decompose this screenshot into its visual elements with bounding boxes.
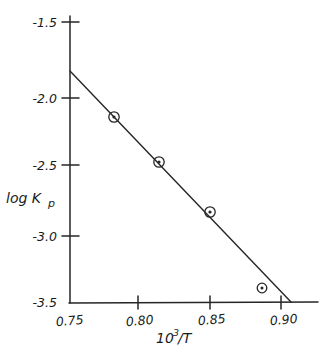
x-tick-label-0: 0.75	[55, 312, 84, 329]
x-tick-label-2: 0.85	[197, 311, 226, 328]
x-tick-label-1: 0.80	[125, 312, 154, 329]
y-axis-title: log K p	[6, 190, 55, 210]
y-axis-title-sub: p	[47, 197, 55, 210]
y-axis-title-main: log K	[6, 190, 43, 206]
data-point-0	[109, 112, 119, 122]
data-point-dot-1	[157, 160, 160, 163]
y-tick-label-1: -2.0	[33, 91, 57, 106]
data-point-3	[257, 283, 267, 293]
data-point-1	[154, 157, 164, 167]
x-axis-title-rest: /T	[176, 330, 193, 346]
chart-figure: -1.5 -2.0 -2.5 -3.0 -3.5 0.75 0.80 0.85 …	[0, 0, 322, 348]
data-point-dot-3	[261, 287, 264, 290]
y-tick-label-0: -1.5	[33, 15, 57, 30]
y-tick-label-3: -3.0	[33, 229, 57, 244]
fit-line-group	[70, 71, 291, 302]
y-tick-labels: -1.5 -2.0 -2.5 -3.0 -3.5	[33, 15, 57, 310]
data-point-dot-0	[112, 115, 115, 118]
x-axis-title: 10 3 /T	[156, 327, 193, 346]
x-tick-label-3: 0.90	[269, 311, 298, 328]
y-tick-label-2: -2.5	[33, 158, 57, 173]
x-axis-title-main: 10	[156, 330, 174, 346]
axes-group	[69, 16, 318, 303]
plot-svg: -1.5 -2.0 -2.5 -3.0 -3.5 0.75 0.80 0.85 …	[0, 0, 322, 348]
data-point-2	[205, 207, 215, 217]
fit-line	[70, 71, 291, 302]
data-point-dot-2	[208, 210, 211, 213]
y-tick-label-4: -3.5	[33, 295, 57, 310]
data-points-group	[109, 112, 267, 293]
